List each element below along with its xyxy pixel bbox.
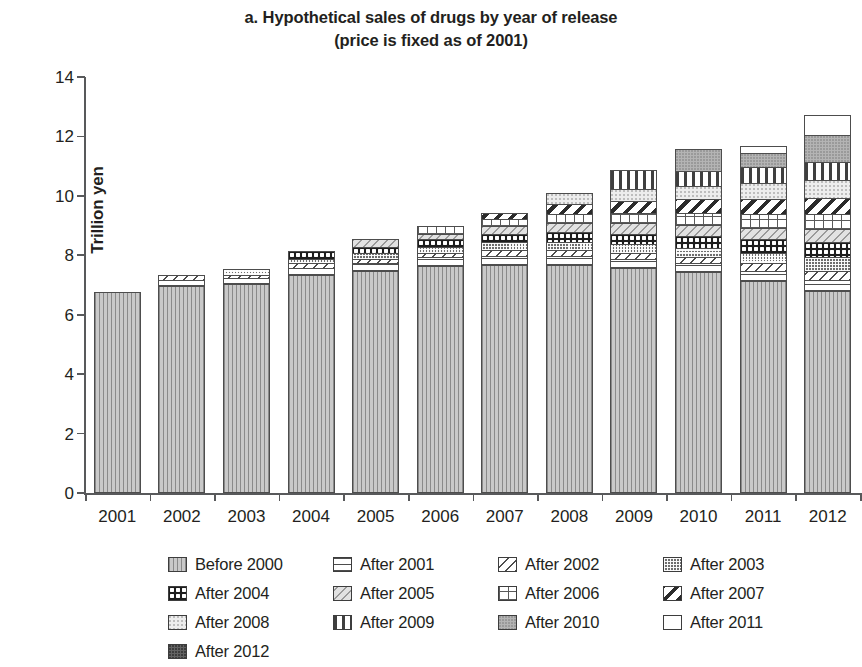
bar-2003 <box>223 270 270 493</box>
legend-label: After 2005 <box>360 584 434 603</box>
legend-item-after2005[interactable]: After 2005 <box>333 579 498 608</box>
bar-segment <box>481 234 528 244</box>
bar-segment <box>481 213 528 220</box>
bar-2001 <box>94 293 141 493</box>
legend-label: After 2001 <box>360 555 434 574</box>
bar-segment <box>158 286 205 494</box>
bar-segment <box>740 281 787 493</box>
legend-swatch-after2003 <box>663 557 682 572</box>
x-tick-label: 2005 <box>357 507 395 527</box>
bar-segment <box>158 280 205 287</box>
legend-item-after2001[interactable]: After 2001 <box>333 550 498 579</box>
legend-swatch-after2002 <box>498 557 517 572</box>
bar-segment <box>352 263 399 271</box>
bar-segment <box>675 225 722 238</box>
bar-segment <box>740 153 787 167</box>
bar-segment <box>417 239 464 247</box>
legend-swatch-after2008 <box>168 615 187 630</box>
bar-segment <box>94 292 141 493</box>
bar-segment <box>740 239 787 253</box>
bar-segment <box>675 149 722 172</box>
x-tick <box>214 493 216 501</box>
y-tick <box>77 492 85 494</box>
legend-item-after2004[interactable]: After 2004 <box>168 579 333 608</box>
legend-swatch-after2005 <box>333 586 352 601</box>
legend-label: After 2002 <box>525 555 599 574</box>
bar-segment <box>417 266 464 493</box>
bar-segment <box>417 247 464 254</box>
legend-label: After 2009 <box>360 613 434 632</box>
legend-row: After 2008After 2009After 2010After 2011 <box>168 608 828 637</box>
bar-segment <box>481 219 528 227</box>
legend-item-after2006[interactable]: After 2006 <box>498 579 663 608</box>
bar-segment <box>546 214 593 224</box>
bar-segment <box>804 280 851 293</box>
bar-segment <box>740 214 787 228</box>
x-tick-label: 2009 <box>615 507 653 527</box>
x-tick-label: 2008 <box>550 507 588 527</box>
legend-item-after2009[interactable]: After 2009 <box>333 608 498 637</box>
legend-label: After 2010 <box>525 613 599 632</box>
x-tick <box>279 493 281 501</box>
bar-segment <box>610 213 657 224</box>
bar-segment <box>610 234 657 245</box>
bar-segment <box>740 263 787 271</box>
chart-title-line1: a. Hypothetical sales of drugs by year o… <box>245 8 618 26</box>
bar-segment <box>610 189 657 202</box>
bar-segment <box>223 284 270 493</box>
bar-2007 <box>481 214 528 493</box>
legend-swatch-after2010 <box>498 615 517 630</box>
y-tick <box>77 195 85 197</box>
legend-item-before2000[interactable]: Before 2000 <box>168 550 333 579</box>
legend-swatch-after2011 <box>663 615 682 630</box>
y-tick-label: 12 <box>14 128 74 145</box>
legend-label: After 2004 <box>195 584 269 603</box>
bar-segment <box>675 263 722 273</box>
legend-swatch-after2001 <box>333 557 352 572</box>
bar-segment <box>740 253 787 264</box>
chart-figure: a. Hypothetical sales of drugs by year o… <box>0 0 862 667</box>
bar-2004 <box>288 252 335 493</box>
bar-segment <box>481 265 528 493</box>
y-tick-label: 2 <box>14 425 74 442</box>
bar-segment <box>675 257 722 264</box>
bar-segment <box>610 170 657 190</box>
y-tick <box>77 254 85 256</box>
legend-label: After 2003 <box>690 555 764 574</box>
bar-segment <box>610 259 657 269</box>
x-tick <box>85 493 87 501</box>
y-tick-label: 0 <box>14 485 74 502</box>
x-tick <box>602 493 604 501</box>
legend-row: After 2012 <box>168 637 828 666</box>
legend-label: After 2006 <box>525 584 599 603</box>
y-tick <box>77 433 85 435</box>
bar-segment <box>546 265 593 493</box>
x-tick-label: 2007 <box>486 507 524 527</box>
bar-2012 <box>804 116 851 493</box>
bar-segment <box>352 253 399 260</box>
legend-item-after2003[interactable]: After 2003 <box>663 550 828 579</box>
legend-label: After 2007 <box>690 584 764 603</box>
bar-segment <box>610 223 657 234</box>
bar-segment <box>610 201 657 214</box>
bar-segment <box>804 198 851 215</box>
legend-swatch-after2007 <box>663 586 682 601</box>
bar-segment <box>546 232 593 243</box>
y-tick <box>77 314 85 316</box>
bar-2002 <box>158 276 205 493</box>
x-tick <box>666 493 668 501</box>
y-tick <box>77 136 85 138</box>
legend-item-after2008[interactable]: After 2008 <box>168 608 333 637</box>
bar-segment <box>417 234 464 241</box>
legend-item-after2007[interactable]: After 2007 <box>663 579 828 608</box>
legend-item-after2002[interactable]: After 2002 <box>498 550 663 579</box>
bar-2008 <box>546 194 593 493</box>
legend-item-after2010[interactable]: After 2010 <box>498 608 663 637</box>
legend-swatch-after2012 <box>168 644 187 659</box>
bar-2006 <box>417 227 464 493</box>
y-tick <box>77 373 85 375</box>
legend-swatch-after2006 <box>498 586 517 601</box>
legend-item-after2012[interactable]: After 2012 <box>168 637 333 666</box>
legend-item-after2011[interactable]: After 2011 <box>663 608 828 637</box>
bar-segment <box>804 115 851 137</box>
